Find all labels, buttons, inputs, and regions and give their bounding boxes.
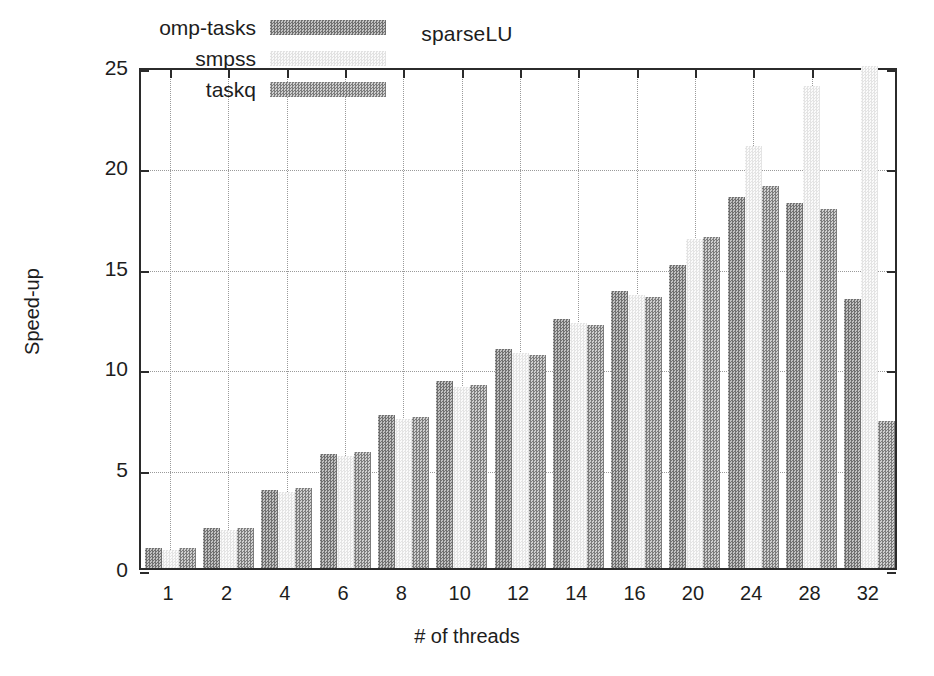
- x-tick-label: 8: [371, 582, 431, 605]
- y-tick-label: 5: [82, 458, 128, 482]
- y-axis-tick-labels: 0510152025: [78, 68, 128, 570]
- y-gridline: [141, 170, 895, 171]
- y-tick-mark: [887, 271, 896, 273]
- bar-omp-tasks-6: [320, 454, 337, 568]
- bar-omp-tasks-8: [378, 415, 395, 568]
- y-tick-label: 10: [82, 357, 128, 381]
- bar-taskq-8: [412, 417, 429, 568]
- bar-smpss-32: [861, 66, 878, 568]
- bar-omp-tasks-28: [786, 203, 803, 568]
- x-tick-label: 12: [488, 582, 548, 605]
- bar-smpss-4: [278, 492, 295, 568]
- legend-swatch-icon: [270, 82, 386, 97]
- chart-legend: omp-taskssmpsstaskq: [36, 12, 386, 105]
- bar-taskq-6: [354, 452, 371, 568]
- y-tick-mark: [140, 271, 149, 273]
- x-tick-label: 14: [546, 582, 606, 605]
- x-gridline: [228, 70, 229, 568]
- bar-smpss-28: [803, 86, 820, 568]
- x-tick-label: 10: [430, 582, 490, 605]
- y-axis-title: Speed-up: [21, 202, 44, 422]
- x-tick-label: 16: [605, 582, 665, 605]
- bar-taskq-32: [878, 421, 895, 568]
- bar-omp-tasks-12: [495, 349, 512, 568]
- bar-taskq-4: [295, 488, 312, 568]
- x-gridline: [170, 70, 171, 568]
- plot-inner: [141, 70, 895, 568]
- bar-smpss-10: [453, 387, 470, 568]
- bar-omp-tasks-10: [436, 381, 453, 568]
- legend-item-taskq[interactable]: taskq: [36, 74, 386, 105]
- chart-figure: sparseLU 0510152025 omp-taskssmpsstaskq …: [0, 0, 934, 676]
- x-axis-title: # of threads: [0, 625, 934, 648]
- x-tick-mark: [753, 69, 755, 78]
- y-tick-mark: [140, 170, 149, 172]
- bar-smpss-6: [337, 456, 354, 568]
- bar-smpss-12: [512, 353, 529, 568]
- bar-taskq-10: [470, 385, 487, 568]
- y-gridline: [141, 271, 895, 272]
- y-tick-mark: [140, 572, 149, 574]
- y-tick-mark: [140, 472, 149, 474]
- bar-taskq-2: [237, 528, 254, 568]
- bar-omp-tasks-14: [553, 319, 570, 568]
- bar-taskq-20: [703, 237, 720, 568]
- legend-item-omp-tasks[interactable]: omp-tasks: [36, 12, 386, 43]
- x-tick-label: 2: [196, 582, 256, 605]
- x-tick-label: 32: [838, 582, 898, 605]
- legend-label: smpss: [195, 47, 256, 71]
- x-tick-mark: [578, 69, 580, 78]
- bar-smpss-16: [628, 295, 645, 568]
- y-tick-label: 0: [82, 558, 128, 582]
- bar-smpss-8: [395, 419, 412, 568]
- y-tick-label: 15: [82, 257, 128, 281]
- bar-taskq-1: [179, 548, 196, 568]
- x-tick-mark: [812, 69, 814, 78]
- bar-smpss-2: [220, 530, 237, 568]
- y-tick-mark: [887, 371, 896, 373]
- x-axis-tick-labels: 124681012141620242832: [139, 582, 897, 612]
- x-tick-label: 4: [255, 582, 315, 605]
- y-tick-mark: [887, 572, 896, 574]
- legend-label: taskq: [206, 78, 256, 102]
- bar-omp-tasks-2: [203, 528, 220, 568]
- plot-area: [139, 68, 897, 570]
- bar-taskq-14: [587, 325, 604, 568]
- x-tick-label: 24: [721, 582, 781, 605]
- y-tick-mark: [887, 170, 896, 172]
- bar-omp-tasks-24: [728, 197, 745, 568]
- bar-taskq-28: [820, 209, 837, 568]
- bar-smpss-14: [570, 323, 587, 568]
- y-tick-mark: [887, 70, 896, 72]
- bar-omp-tasks-1: [145, 548, 162, 568]
- legend-swatch-icon: [270, 51, 386, 66]
- bar-smpss-24: [745, 146, 762, 568]
- bar-smpss-1: [162, 550, 179, 568]
- x-tick-label: 20: [663, 582, 723, 605]
- legend-swatch-icon: [270, 20, 386, 35]
- x-tick-mark: [695, 69, 697, 78]
- bar-smpss-20: [686, 239, 703, 568]
- x-tick-label: 6: [313, 582, 373, 605]
- x-tick-mark: [520, 69, 522, 78]
- bar-omp-tasks-4: [261, 490, 278, 568]
- bar-taskq-24: [762, 186, 779, 568]
- bar-taskq-12: [529, 355, 546, 568]
- x-tick-label: 1: [138, 582, 198, 605]
- y-tick-label: 20: [82, 156, 128, 180]
- bar-omp-tasks-16: [611, 291, 628, 568]
- bar-omp-tasks-32: [844, 299, 861, 568]
- x-tick-label: 28: [780, 582, 840, 605]
- legend-item-smpss[interactable]: smpss: [36, 43, 386, 74]
- x-tick-mark: [462, 69, 464, 78]
- x-tick-mark: [403, 69, 405, 78]
- y-tick-mark: [140, 371, 149, 373]
- bar-omp-tasks-20: [669, 265, 686, 568]
- x-tick-mark: [637, 69, 639, 78]
- legend-label: omp-tasks: [159, 16, 256, 40]
- bar-taskq-16: [645, 297, 662, 568]
